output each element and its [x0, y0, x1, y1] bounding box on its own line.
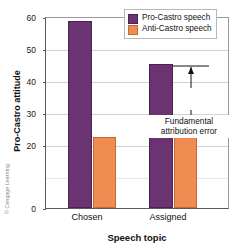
ytick-mark-30	[43, 114, 46, 115]
ytick-label-60: 60	[10, 14, 36, 23]
x-axis-title: Speech topic	[45, 232, 229, 243]
xtick-label-assigned: Assigned	[138, 212, 198, 222]
annotation-line-1: Fundamental	[147, 116, 231, 126]
ytick-mark-60	[43, 18, 46, 19]
figure-bar-chart: © Cengage Learning Pro-Castro attitude 6…	[0, 0, 236, 249]
legend-swatch-purple-icon	[128, 14, 138, 24]
annotation-line-2: attribution error	[147, 126, 231, 136]
ytick-mark-50	[43, 50, 46, 51]
legend-swatch-orange-icon	[128, 25, 138, 35]
bar-chosen-pro-castro	[68, 21, 92, 208]
annotation-label: Fundamental attribution error	[147, 115, 231, 138]
ytick-mark-0	[43, 209, 46, 210]
ytick-label-50: 50	[10, 46, 36, 55]
plot-area: 60 50 40 30 20 0 Fundamental	[45, 17, 229, 209]
legend-label-anti-castro: Anti-Castro speech	[142, 25, 212, 33]
ytick-mark-40	[43, 82, 46, 83]
legend-label-pro-castro: Pro-Castro speech	[142, 14, 210, 22]
ytick-label-30: 30	[10, 110, 36, 119]
bar-chosen-anti-castro	[93, 137, 116, 208]
ytick-label-0: 0	[10, 205, 36, 214]
legend-item-anti-castro: Anti-Castro speech	[128, 24, 212, 35]
ytick-mark-20	[43, 146, 46, 147]
legend-item-pro-castro: Pro-Castro speech	[128, 13, 212, 24]
ytick-label-40: 40	[10, 78, 36, 87]
ytick-label-20: 20	[10, 142, 36, 151]
chart-legend: Pro-Castro speech Anti-Castro speech	[124, 9, 217, 39]
xtick-label-chosen: Chosen	[57, 212, 117, 222]
bar-assigned-anti-castro	[174, 134, 197, 208]
